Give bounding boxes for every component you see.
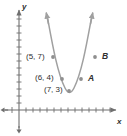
- coordinate-plane-svg: [0, 0, 127, 136]
- graph-figure: (5, 7) (6, 4) (7, 3) A B x y: [0, 0, 127, 136]
- y-axis-label: y: [22, 2, 26, 11]
- y-axis-bottom-arrowhead: [16, 130, 21, 134]
- x-axis-left-arrowhead: [1, 107, 5, 112]
- marker-point-b: [93, 55, 97, 59]
- marker-point-a: [79, 77, 83, 81]
- marker-point-5-7: [51, 55, 55, 59]
- point-label-6-4: (6, 4): [35, 73, 54, 82]
- point-label-7-3: (7, 3): [44, 85, 63, 94]
- x-axis-label: x: [117, 117, 121, 126]
- point-label-b: B: [102, 52, 108, 61]
- point-label-a: A: [88, 74, 94, 83]
- x-axis: [1, 107, 117, 113]
- marker-point-6-4: [60, 77, 64, 81]
- point-label-5-7: (5, 7): [26, 52, 45, 61]
- marker-point-7-3: [67, 89, 71, 93]
- y-axis: [16, 10, 21, 134]
